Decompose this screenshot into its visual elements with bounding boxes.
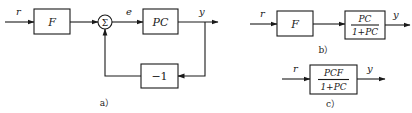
input-label-a: r: [16, 6, 22, 17]
prefilter-label-b: F: [290, 18, 299, 31]
caption-b: b）: [319, 45, 334, 55]
closed-loop-numerator: PC: [358, 14, 372, 24]
overall-numerator: PCF: [323, 68, 344, 78]
input-label-c: r: [293, 63, 299, 74]
input-label-b: r: [260, 8, 266, 19]
feedback-label: −1: [151, 70, 167, 83]
diagram-a: r F Σ e PC y −1 a）: [5, 6, 218, 108]
diagram-c: r PCF 1+PC y c）: [282, 63, 385, 109]
output-label-a: y: [198, 6, 205, 17]
closed-loop-denominator: 1+PC: [352, 27, 378, 37]
plant-label-a: PC: [152, 16, 169, 29]
feedback-path-left: [105, 29, 141, 76]
sigma-symbol: Σ: [102, 18, 108, 28]
caption-a: a）: [100, 98, 114, 108]
output-label-b: y: [392, 9, 399, 20]
caption-c: c）: [326, 99, 340, 109]
output-label-c: y: [366, 63, 373, 74]
feedback-path-right: [178, 22, 205, 76]
diagram-b: r F PC 1+PC y b）: [250, 8, 410, 55]
block-diagrams: r F Σ e PC y −1 a） r F PC 1+PC y b）: [0, 0, 412, 113]
overall-denominator: 1+PC: [320, 82, 346, 92]
error-label: e: [126, 6, 132, 17]
prefilter-label-a: F: [47, 16, 56, 29]
